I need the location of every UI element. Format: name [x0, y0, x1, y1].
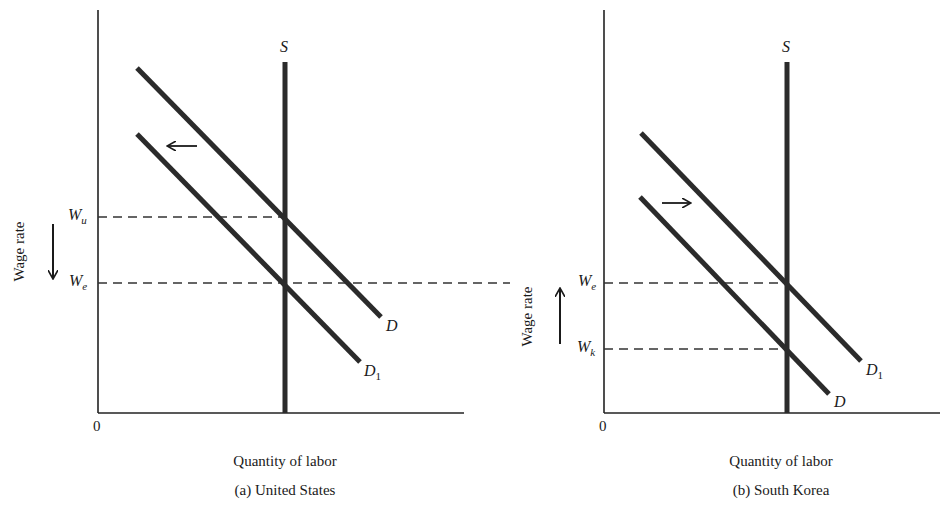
- panel-a-x-axis-label: Quantity of labor: [180, 453, 390, 470]
- panel-a-wu-base: W: [68, 206, 81, 223]
- panel-b-title: (b) South Korea: [676, 482, 886, 499]
- panel-b-wk-label: Wk: [577, 338, 595, 358]
- panel-a-demand1-sub: 1: [376, 370, 382, 382]
- panel-b-wk-base: W: [577, 338, 590, 355]
- panel-b-south-korea: [560, 10, 940, 413]
- panel-b-supply-label: S: [782, 38, 790, 56]
- panel-b-demand1-base: D: [866, 361, 878, 378]
- panel-a-demand1-base: D: [364, 362, 376, 379]
- panel-b-we-base: W: [578, 272, 591, 289]
- panel-a-we-base: W: [69, 272, 82, 289]
- panel-b-wk-sub: k: [590, 346, 595, 358]
- panel-a-demand-curve-d: [137, 68, 381, 317]
- panel-a-we-label: We: [69, 272, 87, 292]
- panel-a-y-axis-label: Wage rate: [11, 217, 28, 287]
- panel-a-demand1-label: D1: [364, 362, 381, 382]
- panel-b-y-axis-label: Wage rate: [519, 282, 536, 352]
- panel-b-demand-label: D: [834, 393, 846, 411]
- panel-b-x-axis-label: Quantity of labor: [676, 453, 886, 470]
- panel-b-demand1-label: D1: [866, 361, 883, 381]
- panel-a-we-sub: e: [82, 280, 87, 292]
- panel-b-demand-curve-d1: [641, 133, 861, 361]
- panel-a-title: (a) United States: [180, 482, 390, 499]
- panel-a-demand-label: D: [386, 317, 398, 335]
- panel-a-supply-label: S: [280, 38, 288, 56]
- panel-b-demand1-sub: 1: [878, 369, 884, 381]
- panel-a-united-states: [53, 10, 510, 413]
- panel-a-demand-curve-d1: [137, 134, 360, 362]
- panel-b-origin-label: 0: [599, 418, 607, 435]
- panel-b-we-label: We: [578, 272, 596, 292]
- panel-a-wu-sub: u: [81, 214, 87, 226]
- panel-a-origin-label: 0: [93, 418, 101, 435]
- chart-canvas: [0, 0, 945, 513]
- panel-b-we-sub: e: [591, 280, 596, 292]
- panel-a-wu-label: Wu: [68, 206, 87, 226]
